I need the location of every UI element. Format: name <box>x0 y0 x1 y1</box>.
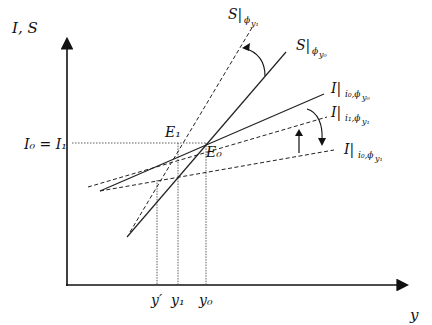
saving-shift-arrowhead <box>242 43 250 51</box>
svg-text:S|: S| <box>296 37 310 54</box>
svg-text:ϕ: ϕ <box>244 15 250 25</box>
y-axis-label: I, S <box>11 19 38 37</box>
svg-text:I|: I| <box>330 80 341 97</box>
svg-text:ϕ: ϕ <box>312 46 318 56</box>
label-i-i0-phi-y0: I| i₀,ϕ y₀ <box>330 80 371 102</box>
investment-up-shift-arrowhead <box>295 129 303 136</box>
svg-text:y₁: y₁ <box>374 154 383 163</box>
investment-curve-i0-phi-y0 <box>100 94 324 191</box>
label-i-i1-phi-y1: I| i₁,ϕ y₁ <box>330 104 370 126</box>
saving-curve-phi-y1 <box>130 26 253 232</box>
is-diagram: I, S y I₀ = I₁ y′ y₁ y₀ E₁ E₀ S| ϕ y₁ S|… <box>0 0 432 325</box>
investment-down-shift-arrowhead <box>318 138 326 146</box>
svg-text:y₁: y₁ <box>361 117 370 126</box>
y-tick-label: I₀ = I₁ <box>23 136 67 152</box>
svg-text:y₀: y₀ <box>318 50 328 59</box>
svg-text:i₀,ϕ: i₀,ϕ <box>358 150 373 160</box>
svg-text:I|: I| <box>330 104 341 121</box>
svg-text:S|: S| <box>228 6 242 23</box>
investment-down-shift-arrow <box>307 109 322 140</box>
x-tick-y1: y₁ <box>170 292 185 308</box>
equilibrium-e1-label: E₁ <box>164 124 181 140</box>
x-tick-y0: y₀ <box>198 292 213 308</box>
saving-shift-arrow <box>244 48 265 76</box>
x-axis-label: y <box>409 306 419 324</box>
label-s-phi-y1: S| ϕ y₁ <box>228 6 259 28</box>
svg-text:i₀,ϕ: i₀,ϕ <box>345 89 360 99</box>
svg-text:I|: I| <box>343 141 354 158</box>
svg-text:y₁: y₁ <box>250 19 259 28</box>
equilibrium-e0-label: E₀ <box>205 144 222 160</box>
label-i-i0-phi-y1: I| i₀,ϕ y₁ <box>343 141 383 163</box>
x-tick-y-prime: y′ <box>150 292 163 308</box>
svg-text:i₁,ϕ: i₁,ϕ <box>345 113 360 123</box>
svg-text:y₀: y₀ <box>361 93 371 102</box>
label-s-phi-y0: S| ϕ y₀ <box>296 37 328 59</box>
